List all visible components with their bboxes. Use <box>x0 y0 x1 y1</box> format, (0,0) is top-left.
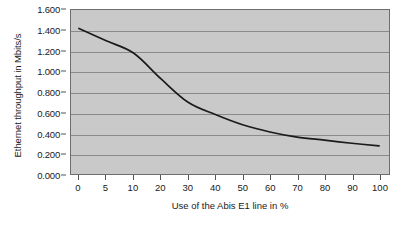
y-axis-tick-label: 1.200 <box>37 45 60 56</box>
x-axis-tick-label: 30 <box>183 182 194 193</box>
x-axis-tick-label: 90 <box>347 182 358 193</box>
x-axis-tick-mark <box>353 175 354 180</box>
y-axis-tick-mark <box>61 92 66 93</box>
x-axis-tick-mark <box>133 175 134 180</box>
y-axis-tick-mark <box>61 9 66 10</box>
x-axis-tick-mark <box>270 175 271 180</box>
plot-area <box>70 9 390 175</box>
y-axis-tick-label: 1.600 <box>37 4 60 15</box>
x-axis-tick-label: 5 <box>103 182 108 193</box>
chart-container: Ethernet throughput in Mbits/s 0.0000.20… <box>0 0 408 228</box>
x-axis-tick-mark <box>215 175 216 180</box>
y-axis-tick-label: 0.000 <box>37 170 60 181</box>
x-axis-tick-label: 70 <box>292 182 303 193</box>
y-axis-tick-label: 0.600 <box>37 107 60 118</box>
x-axis-tick-label: 50 <box>237 182 248 193</box>
y-axis-tick-mark <box>61 154 66 155</box>
x-axis-tick-mark <box>243 175 244 180</box>
x-axis-tick-mark <box>78 175 79 180</box>
y-axis-tick-mark <box>61 175 66 176</box>
y-axis-tick-label: 1.000 <box>37 66 60 77</box>
x-axis-tick-mark <box>298 175 299 180</box>
x-axis-tick-mark <box>188 175 189 180</box>
x-axis-tick-mark <box>325 175 326 180</box>
y-axis-tick-group: 0.0000.2000.4000.6000.8001.0001.2001.400… <box>30 9 66 175</box>
x-axis-tick-label: 10 <box>128 182 139 193</box>
x-axis-tick-mark <box>380 175 381 180</box>
x-axis-tick-label: 0 <box>75 182 80 193</box>
y-axis-tick-mark <box>61 133 66 134</box>
y-axis-tick-mark <box>61 29 66 30</box>
data-line-path <box>79 28 379 145</box>
x-axis-tick-label: 60 <box>265 182 276 193</box>
y-axis-title: Ethernet throughput in Mbits/s <box>13 33 24 157</box>
x-axis-tick-label: 20 <box>155 182 166 193</box>
x-axis-tick-marks <box>70 175 390 181</box>
y-axis-tick-mark <box>61 50 66 51</box>
x-axis-tick-label: 80 <box>320 182 331 193</box>
y-axis-tick-label: 0.800 <box>37 87 60 98</box>
y-axis-tick-label: 1.400 <box>37 24 60 35</box>
x-axis-tick-mark <box>160 175 161 180</box>
x-axis-tick-label: 100 <box>372 182 388 193</box>
x-axis-tick-label-group: 05102030405060708090100 <box>70 182 390 196</box>
x-axis-tick-mark <box>105 175 106 180</box>
x-axis-title: Use of the Abis E1 line in % <box>70 200 390 211</box>
data-line-series <box>71 10 389 174</box>
x-axis-tick-label: 40 <box>210 182 221 193</box>
y-axis-tick-label: 0.200 <box>37 149 60 160</box>
y-axis-tick-mark <box>61 112 66 113</box>
y-axis-tick-label: 0.400 <box>37 128 60 139</box>
y-axis-tick-mark <box>61 71 66 72</box>
